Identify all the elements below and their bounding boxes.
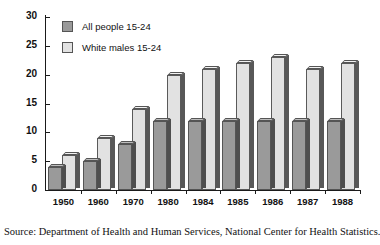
bar-group: [255, 17, 290, 190]
x-axis-label-1988: 1988: [320, 196, 366, 207]
bar-side-face: [202, 119, 206, 188]
bar-group: [220, 17, 255, 190]
bar-side-face: [62, 165, 66, 188]
x-axis-tick-mark: [186, 190, 187, 194]
bar-side-face: [146, 107, 150, 188]
bar-front-face: [257, 121, 271, 190]
bar-side-face: [355, 61, 359, 188]
bar-group: [290, 17, 325, 190]
bar-front-face: [188, 121, 202, 190]
bar-all-people-1987: [292, 121, 306, 190]
x-axis-tick-mark: [290, 190, 291, 194]
bar-side-face: [285, 55, 289, 188]
x-axis-tick-mark: [220, 190, 221, 194]
bar-front-face: [222, 121, 236, 190]
legend-label: White males 15-24: [82, 42, 161, 53]
bar-front-face: [48, 167, 62, 190]
x-axis-tick-mark: [151, 190, 152, 194]
bar-all-people-1986: [257, 121, 271, 190]
bar-all-people-1960: [83, 161, 97, 190]
bar-side-face: [320, 67, 324, 188]
bar-group: [325, 17, 360, 190]
legend-label: All people 15-24: [82, 21, 151, 32]
bar-side-face: [111, 136, 115, 188]
bar-all-people-1980: [153, 121, 167, 190]
x-axis-tick-mark: [325, 190, 326, 194]
bar-front-face: [83, 161, 97, 190]
chart-legend: All people 15-24White males 15-24: [62, 18, 192, 60]
bar-all-people-1985: [222, 121, 236, 190]
bar-all-people-1950: [48, 167, 62, 190]
bar-side-face: [216, 67, 220, 188]
bar-front-face: [153, 121, 167, 190]
bar-side-face: [236, 119, 240, 188]
x-axis-line: [45, 190, 361, 191]
bar-side-face: [132, 142, 136, 188]
bar-side-face: [306, 119, 310, 188]
legend-swatch-white-males: [62, 42, 73, 53]
legend-item: All people 15-24: [62, 18, 192, 35]
x-axis-tick-mark: [360, 190, 361, 194]
x-axis-tick-mark: [255, 190, 256, 194]
y-axis-tick-label: 25: [26, 39, 37, 50]
x-axis-tick-mark: [116, 190, 117, 194]
y-axis-tick-label: 15: [26, 97, 37, 108]
y-axis-tick-label: 0: [31, 183, 37, 194]
bar-side-face: [250, 61, 254, 188]
bar-side-face: [76, 153, 80, 188]
x-axis-tick-mark: [81, 190, 82, 194]
chart-figure: 302520151050 195019601970198019841985198…: [0, 0, 368, 216]
bar-side-face: [181, 73, 185, 188]
y-axis-tick-label: 20: [26, 68, 37, 79]
legend-swatch-all-people: [62, 21, 73, 32]
legend-item: White males 15-24: [62, 39, 192, 56]
bar-side-face: [167, 119, 171, 188]
bar-side-face: [97, 159, 101, 188]
bar-front-face: [292, 121, 306, 190]
bar-side-face: [341, 119, 345, 188]
bar-all-people-1970: [118, 144, 132, 190]
source-note: Source: Department of Health and Human S…: [4, 226, 380, 237]
y-axis-tick-label: 10: [26, 125, 37, 136]
bar-all-people-1984: [188, 121, 202, 190]
y-axis-tick-label: 30: [26, 10, 37, 21]
y-axis-tick-label: 5: [31, 154, 37, 165]
bar-side-face: [271, 119, 275, 188]
bar-front-face: [327, 121, 341, 190]
bar-all-people-1988: [327, 121, 341, 190]
bar-front-face: [118, 144, 132, 190]
